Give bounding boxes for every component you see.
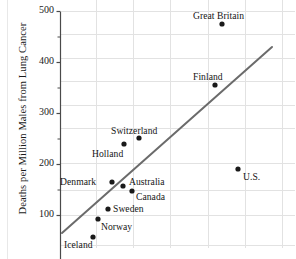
point-label-holland: Holland xyxy=(92,148,123,159)
data-point[interactable]: U.S.: 191 xyxy=(235,166,240,171)
point-label-australia: Australia xyxy=(129,176,165,187)
y-axis-group xyxy=(57,11,296,259)
data-point[interactable]: Finland: 350 xyxy=(212,82,217,87)
point-label-sweden: Sweden xyxy=(113,203,144,214)
data-point[interactable]: Holland: 239 xyxy=(121,141,126,146)
point-label-great-britain: Great Britain xyxy=(193,10,244,21)
point-label-norway: Norway xyxy=(101,221,132,232)
data-point[interactable]: Canada: 151 xyxy=(129,188,134,193)
scatter-plot-figure: Deaths per Million Males from Lung Cance… xyxy=(0,0,295,259)
data-point[interactable]: Switzerland: 250 xyxy=(136,135,141,140)
trend-line xyxy=(62,47,272,233)
data-point[interactable]: Sweden: 115 xyxy=(105,206,110,211)
y-tick-label: 300 xyxy=(28,106,54,117)
y-tick-label: 200 xyxy=(28,157,54,168)
y-tick-label: 100 xyxy=(28,208,54,219)
y-tick-label: 500 xyxy=(28,4,54,15)
y-tick-label: 400 xyxy=(28,55,54,66)
point-label-iceland: Iceland xyxy=(64,239,93,250)
page-edge-line xyxy=(7,0,8,259)
point-label-finland: Finland xyxy=(193,71,223,82)
data-point[interactable]: Australia: 166 xyxy=(120,183,125,188)
data-point[interactable]: Norway: 91 xyxy=(95,216,100,221)
point-label-u-s: U.S. xyxy=(243,171,260,182)
gridlines-group xyxy=(60,0,295,248)
point-label-switzerland: Switzerland xyxy=(111,125,157,136)
data-point[interactable]: Great Britain: 468 xyxy=(219,21,224,26)
y-axis-label: Deaths per Million Males from Lung Cance… xyxy=(17,4,28,234)
data-point[interactable]: Denmark: 162 xyxy=(109,179,114,184)
point-label-denmark: Denmark xyxy=(60,176,96,187)
point-label-canada: Canada xyxy=(136,191,165,202)
